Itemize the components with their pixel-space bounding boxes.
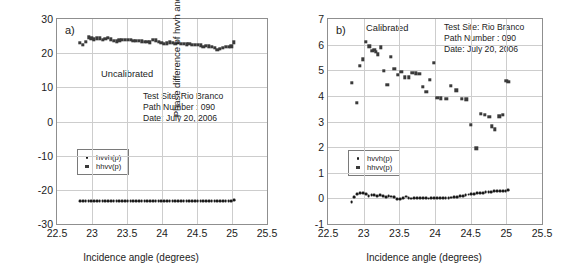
data-point-hhvvp — [465, 98, 468, 101]
y-axis-tick-label: -1 — [315, 218, 324, 230]
panel-b-y-axis-label: Phase difference of hvvh and hhvv (degre… — [171, 0, 187, 149]
x-axis-tick-label: 24 — [429, 227, 441, 239]
data-point-hhvvp — [358, 64, 361, 67]
data-point-hhvvp — [501, 113, 504, 116]
data-point-hhvvp — [439, 97, 442, 100]
panel-a-x-axis-label: Incidence angle (degrees) — [0, 252, 282, 263]
data-point-hhvvp — [84, 40, 87, 43]
legend-entry-hhvv: hhvv(p) — [353, 163, 392, 172]
x-axis-tick-label: 24.5 — [460, 227, 480, 239]
data-point-hvvhp — [233, 199, 236, 202]
y-axis-tick-label: 30 — [41, 13, 53, 25]
panel-a-letter: a) — [65, 24, 75, 36]
panel-b-state-label: Calibrated — [366, 23, 408, 33]
data-point-hhvvp — [368, 45, 371, 48]
gridline-horizontal — [57, 87, 267, 88]
gridline-horizontal — [57, 190, 267, 191]
figure-container: Phase difference of hvvh and hhvv (degre… — [0, 0, 565, 278]
panel-a-plot-area: a) Uncalibrated Test Site: Rio Branco Pa… — [56, 18, 268, 225]
panel-a-legend: hvvh(p) hhvv(p) — [77, 149, 129, 175]
y-axis-tick-label: 2 — [318, 141, 324, 153]
panel-b-annot-line-1: Test Site: Rio Branco — [444, 22, 524, 33]
panel-b-letter: b) — [336, 24, 346, 36]
data-point-hhvvp — [493, 127, 496, 130]
gridline-horizontal — [328, 147, 542, 148]
gridline-horizontal — [328, 70, 542, 71]
y-axis-tick-label: 4 — [318, 90, 324, 102]
x-axis-tick-label: 24 — [156, 227, 168, 239]
data-point-hvvhp — [353, 195, 356, 198]
data-point-hhvvp — [455, 89, 458, 92]
x-axis-tick-label: 23 — [86, 227, 98, 239]
gridline-horizontal — [57, 156, 267, 157]
y-axis-tick-label: 6 — [318, 39, 324, 51]
data-point-hhvvp — [475, 147, 478, 150]
y-axis-tick-label: -20 — [38, 184, 53, 196]
legend-marker-square-icon — [82, 165, 92, 168]
legend-marker-square-icon — [353, 166, 363, 169]
x-axis-tick-label: 23 — [358, 227, 370, 239]
y-axis-tick-label: 1 — [318, 167, 324, 179]
data-point-hhvvp — [393, 67, 396, 70]
y-axis-tick-label: -10 — [38, 150, 53, 162]
x-axis-tick-label: 25 — [226, 227, 238, 239]
x-axis-tick-label: 24.5 — [187, 227, 207, 239]
panel-b-annot-line-3: Date: July 20, 2006 — [444, 44, 524, 55]
data-point-hhvvp — [382, 69, 385, 72]
data-point-hhvvp — [379, 45, 382, 48]
data-point-hhvvp — [350, 81, 353, 84]
data-point-hhvvp — [230, 45, 233, 48]
y-axis-tick-label: 0 — [318, 192, 324, 204]
y-axis-tick-label: 7 — [318, 13, 324, 25]
panel-b: Phase difference of hvvh and hhvv (degre… — [283, 0, 565, 278]
data-point-hhvvp — [507, 80, 510, 83]
data-point-hvvhp — [350, 200, 353, 203]
data-point-hhvvp — [418, 72, 421, 75]
y-axis-tick-label: 0 — [47, 116, 53, 128]
data-point-hhvvp — [389, 55, 392, 58]
gridline-horizontal — [328, 45, 542, 46]
gridline-horizontal — [328, 122, 542, 123]
data-point-hhvvp — [376, 53, 379, 56]
x-axis-tick-label: 23.5 — [117, 227, 137, 239]
legend-label-hvvh: hvvh(p) — [367, 154, 392, 163]
legend-entry-hvvh: hvvh(p) — [353, 154, 392, 163]
data-point-hvvhp — [507, 189, 510, 192]
data-point-hhvvp — [361, 58, 364, 61]
panel-b-annot-line-2: Path Number : 090 — [444, 33, 524, 44]
x-axis-tick-label: 25.5 — [257, 227, 277, 239]
data-point-hhvvp — [407, 76, 410, 79]
data-point-hhvvp — [428, 78, 431, 81]
x-axis-tick-label: 23.5 — [389, 227, 409, 239]
data-point-hhvvp — [425, 90, 428, 93]
x-axis-tick-label: 25 — [500, 227, 512, 239]
legend-entry-hvvh: hvvh(p) — [82, 153, 121, 162]
data-point-hhvvp — [460, 97, 463, 100]
data-point-hhvvp — [469, 123, 472, 126]
panel-b-x-axis-label: Incidence angle (degrees) — [283, 252, 565, 263]
data-point-hhvvp — [232, 41, 235, 44]
legend-marker-dot-icon — [353, 157, 363, 160]
data-point-hhvvp — [81, 43, 84, 46]
data-point-hhvvp — [355, 101, 358, 104]
panel-b-plot-area: b) Calibrated Test Site: Rio Branco Path… — [327, 18, 543, 225]
legend-entry-hhvv: hhvv(p) — [82, 162, 121, 171]
legend-label-hhvv: hhvv(p) — [96, 162, 121, 171]
data-point-hhvvp — [432, 61, 435, 64]
data-point-hhvvp — [449, 84, 452, 87]
legend-label-hhvv: hhvv(p) — [367, 163, 392, 172]
gridline-horizontal — [57, 53, 267, 54]
data-point-hhvvp — [445, 97, 448, 100]
y-axis-tick-label: -30 — [38, 218, 53, 230]
gridline-horizontal — [57, 122, 267, 123]
data-point-hhvvp — [421, 85, 424, 88]
data-point-hhvvp — [488, 115, 491, 118]
data-point-hhvvp — [479, 112, 482, 115]
gridline-horizontal — [328, 173, 542, 174]
y-axis-tick-label: 20 — [41, 47, 53, 59]
legend-label-hvvh: hvvh(p) — [96, 153, 121, 162]
x-axis-tick-label: 25.5 — [532, 227, 552, 239]
data-point-hhvvp — [396, 73, 399, 76]
panel-a: Phase difference of hvvh and hhvv (degre… — [0, 0, 282, 278]
y-axis-tick-label: 3 — [318, 116, 324, 128]
